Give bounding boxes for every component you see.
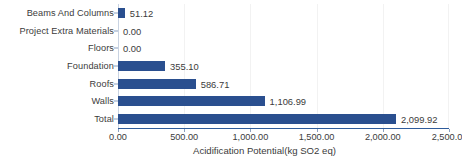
table-row: Floors 0.00 — [0, 39, 461, 57]
bar-roofs — [118, 79, 196, 89]
x-axis-ticks: 0.00 500.00 1,000.00 1,500.00 2,000.00 2… — [0, 129, 461, 143]
x-tick-label-2500: 2,500.0 — [432, 132, 462, 142]
table-row: Roofs 586.71 — [0, 75, 461, 93]
bar-total — [118, 114, 396, 124]
x-axis-title: Acidification Potential(kg SO2 eq) — [193, 145, 336, 156]
table-row: Total 2,099.92 — [0, 110, 461, 128]
bar-value-foundation: 355.10 — [165, 60, 199, 71]
x-tick-label-1500: 1,500.00 — [299, 132, 335, 142]
table-row: Beams And Columns 51.12 — [0, 4, 461, 22]
table-row: Foundation 355.10 — [0, 57, 461, 75]
bar-rows: Beams And Columns 51.12 Project Extra Ma… — [0, 4, 461, 128]
x-tick-label-500: 500.00 — [170, 132, 198, 142]
category-label-foundation: Foundation — [67, 61, 118, 71]
bar-value-total: 2,099.92 — [396, 114, 438, 125]
bar-walls — [118, 96, 265, 106]
category-label-project-extra-materials: Project Extra Materials — [19, 26, 118, 36]
x-axis-title-wrap: Acidification Potential(kg SO2 eq) — [0, 145, 461, 156]
bar-value-beams-and-columns: 51.12 — [125, 7, 153, 18]
bar-foundation — [118, 61, 165, 71]
bar-value-floors: 0.00 — [118, 43, 141, 54]
bar-value-walls: 1,106.99 — [265, 96, 307, 107]
x-tick-label-0: 0.00 — [109, 132, 127, 142]
table-row: Project Extra Materials 0.00 — [0, 22, 461, 40]
bar-value-roofs: 586.71 — [196, 78, 230, 89]
x-tick-label-2000: 2,000.00 — [365, 132, 401, 142]
bar-value-project-extra-materials: 0.00 — [118, 25, 141, 36]
x-tick-label-1000: 1,000.00 — [233, 132, 269, 142]
category-label-beams-and-columns: Beams And Columns — [27, 8, 118, 18]
bar-beams-and-columns — [118, 8, 125, 18]
table-row: Walls 1,106.99 — [0, 93, 461, 111]
